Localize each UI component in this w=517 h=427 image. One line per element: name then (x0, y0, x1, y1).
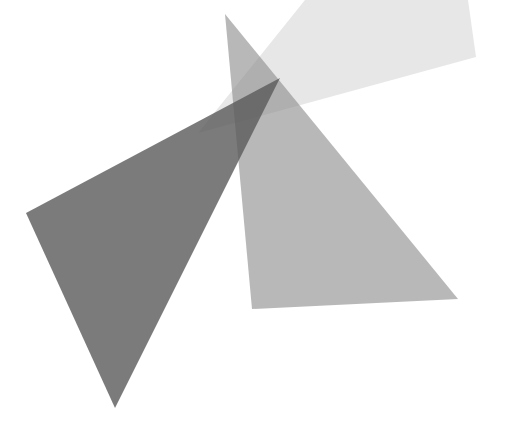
dark-triangle (26, 78, 280, 408)
abstract-artwork (0, 0, 517, 427)
polygon-composition (0, 0, 517, 427)
